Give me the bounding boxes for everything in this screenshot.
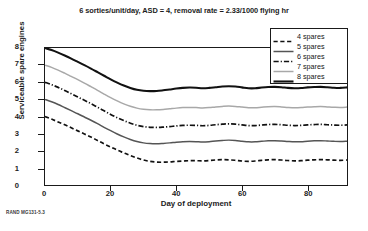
x-tick-mark bbox=[242, 186, 243, 191]
legend-item-7-spares[interactable]: 7 spares bbox=[273, 61, 344, 71]
legend-item-label: 5 spares bbox=[297, 42, 325, 51]
legend-line-swatch bbox=[273, 62, 294, 71]
y-tick-mark bbox=[38, 99, 44, 100]
y-tick-label: 1 bbox=[0, 165, 19, 173]
chart-title: 6 sorties/unit/day, ASD = 4, removal rat… bbox=[0, 6, 368, 15]
legend-item-label: 4 spares bbox=[297, 32, 325, 41]
legend-item-4-spares[interactable]: 4 spares bbox=[273, 31, 344, 41]
legend-line-swatch bbox=[273, 32, 294, 41]
y-axis-label: Serviceable spare engines bbox=[17, 1, 26, 141]
legend-line-swatch bbox=[273, 42, 294, 51]
y-tick-mark bbox=[38, 64, 44, 65]
x-tick-label: 0 bbox=[32, 189, 56, 198]
y-tick-label: 0 bbox=[0, 182, 19, 190]
figure-container: 6 sorties/unit/day, ASD = 4, removal rat… bbox=[0, 0, 368, 231]
y-tick-label: 2 bbox=[0, 147, 19, 155]
legend-item-8-spares[interactable]: 8 spares bbox=[273, 71, 344, 81]
legend-item-label: 8 spares bbox=[297, 72, 325, 81]
y-tick-mark bbox=[38, 134, 44, 135]
chart-legend: 4 spares5 spares6 spares7 spares8 spares bbox=[270, 28, 348, 84]
x-tick-mark bbox=[308, 186, 309, 191]
series-line-4-spares bbox=[45, 117, 347, 163]
x-tick-mark bbox=[176, 186, 177, 191]
legend-item-label: 6 spares bbox=[297, 52, 325, 61]
legend-item-6-spares[interactable]: 6 spares bbox=[273, 51, 344, 61]
figure-source-note: RAND MG131-5.3 bbox=[6, 210, 45, 215]
y-tick-mark bbox=[38, 169, 44, 170]
y-tick-mark bbox=[38, 82, 44, 83]
x-axis-label: Day of deployment bbox=[44, 199, 348, 208]
y-tick-mark bbox=[38, 151, 44, 152]
y-tick-mark bbox=[38, 117, 44, 118]
legend-line-swatch bbox=[273, 72, 294, 81]
x-tick-mark bbox=[110, 186, 111, 191]
legend-line-swatch bbox=[273, 52, 294, 61]
legend-item-5-spares[interactable]: 5 spares bbox=[273, 41, 344, 51]
legend-item-label: 7 spares bbox=[297, 62, 325, 71]
